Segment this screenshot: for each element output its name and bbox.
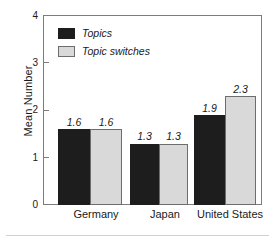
legend-swatch-topics-icon	[58, 28, 75, 39]
bar-value-united-states-topics: 1.9	[202, 103, 217, 114]
legend-label-topic-switches: Topic switches	[82, 46, 150, 57]
legend-label-topics: Topics	[82, 28, 112, 39]
y-tick-label-0: 0	[16, 200, 38, 210]
bottom-divider	[6, 235, 269, 236]
bar-value-germany-topic-switches: 1.6	[99, 117, 114, 128]
y-tick-label-4: 4	[16, 11, 38, 21]
legend-entry-topics[interactable]: Topics	[58, 28, 150, 39]
bar-germany-topic-switches[interactable]: 1.6	[90, 129, 122, 205]
bar-united-states-topics[interactable]: 1.9	[194, 115, 225, 205]
y-tick-label-3: 3	[16, 58, 38, 68]
y-tick-label-1: 1	[16, 153, 38, 163]
bar-group-united-states: 1.9 2.3	[194, 16, 256, 205]
bar-united-states-topic-switches[interactable]: 2.3	[225, 96, 256, 205]
legend-swatch-topic-switches-icon	[58, 46, 75, 57]
bar-japan-topic-switches[interactable]: 1.3	[159, 144, 188, 205]
bar-value-japan-topic-switches: 1.3	[166, 131, 181, 142]
bar-value-united-states-topic-switches: 2.3	[233, 84, 248, 95]
legend-entry-topic-switches[interactable]: Topic switches	[58, 46, 150, 57]
bar-value-japan-topics: 1.3	[137, 131, 152, 142]
y-tick-label-2: 2	[16, 105, 38, 115]
bar-value-germany-topics: 1.6	[67, 117, 82, 128]
bar-japan-topics[interactable]: 1.3	[130, 144, 159, 205]
bar-germany-topics[interactable]: 1.6	[58, 129, 90, 205]
legend: Topics Topic switches	[58, 28, 150, 64]
bar-chart-figure: Mean Number 4 3 2 1 0 1.6 1.6 1.3	[0, 0, 275, 242]
x-tick-label-united-states: United States	[180, 209, 275, 220]
